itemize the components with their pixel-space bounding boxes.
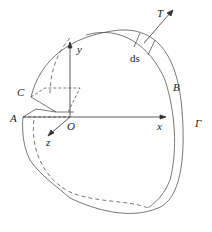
label-ds: ds: [130, 53, 140, 64]
notch-dashed: [31, 88, 80, 112]
label-C: C: [17, 87, 24, 98]
label-x: x: [157, 121, 162, 132]
label-gamma: Γ: [195, 118, 201, 129]
x-axis-arrow-icon: [160, 115, 166, 119]
notch-edge: [31, 97, 74, 112]
label-B: B: [173, 82, 180, 93]
label-T: T: [157, 8, 163, 19]
label-z: z: [46, 137, 50, 148]
diagram-canvas: T ds B C A O x y z Γ: [0, 0, 212, 232]
label-y: y: [77, 44, 82, 55]
label-A: A: [10, 113, 17, 124]
notch-lower: [23, 109, 56, 117]
y-axis-arrow-icon: [68, 42, 72, 48]
label-O: O: [67, 121, 75, 132]
diagram-drawing: [0, 0, 212, 232]
